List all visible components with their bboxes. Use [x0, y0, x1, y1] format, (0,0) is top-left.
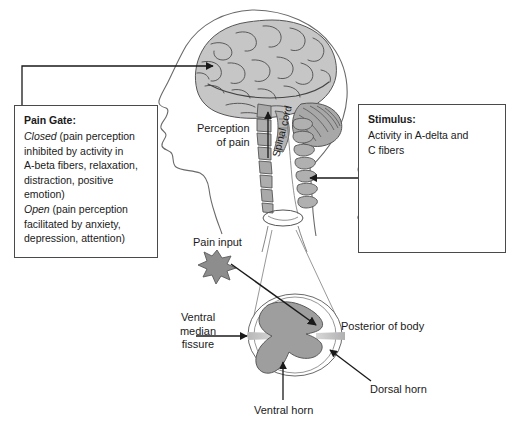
- stimulus-callout: Stimulus: Activity in A-delta and C fibe…: [358, 104, 506, 253]
- pain-gate-line-0: Closed (pain perception: [24, 129, 150, 144]
- label-posterior-of-body: Posterior of body: [341, 320, 424, 334]
- stimulus-line-0: Activity in A-delta and: [368, 128, 498, 143]
- bottom-caption-partial: [6, 424, 306, 433]
- label-perception-of-pain: Perception of pain: [197, 122, 250, 149]
- pain-gate-line-1: inhibited by activity in: [24, 144, 150, 159]
- figure-canvas: Pain Gate: Closed (pain perception inhib…: [0, 0, 512, 433]
- pain-gate-title: Pain Gate:: [24, 113, 150, 128]
- spinal-cord-cross-section: [248, 294, 345, 376]
- pain-gate-line-7: depression, attention): [24, 231, 150, 246]
- pain-gate-callout: Pain Gate: Closed (pain perception inhib…: [14, 105, 158, 258]
- pain-gate-closed-keyword: Closed: [24, 130, 57, 142]
- pain-gate-line-5-rest: (pain perception: [50, 203, 128, 215]
- label-ventral-median-fissure: Ventral median fissure: [159, 311, 237, 352]
- pain-gate-open-keyword: Open: [24, 203, 50, 215]
- pain-gate-line-4: emotion): [24, 187, 150, 202]
- stimulus-line-1: C fibers: [368, 143, 498, 158]
- label-dorsal-horn: Dorsal horn: [370, 383, 427, 397]
- label-pain-input: Pain input: [193, 236, 242, 250]
- label-ventral-horn: Ventral horn: [254, 404, 313, 418]
- pain-gate-line-2: A-beta fibers, relaxation,: [24, 158, 150, 173]
- pain-gate-line-0-rest: (pain perception: [57, 130, 135, 142]
- pain-gate-line-3: distraction, positive: [24, 173, 150, 188]
- stimulus-title: Stimulus:: [368, 112, 498, 127]
- pain-gate-line-6: facilitated by anxiety,: [24, 217, 150, 232]
- pain-gate-line-5: Open (pain perception: [24, 202, 150, 217]
- pain-input-star-icon: [198, 250, 236, 284]
